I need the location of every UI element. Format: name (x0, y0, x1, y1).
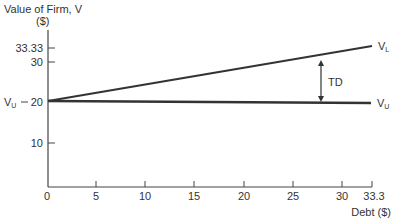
x-tick-label: 33.3 (363, 190, 384, 202)
x-tick-label: 30 (336, 190, 348, 202)
y-tick-label: 10 (31, 137, 43, 149)
x-tick-label: 0 (44, 190, 50, 202)
x-tick-label: 15 (188, 190, 200, 202)
y-ticks: 33.33 30 20 10 VU (4, 42, 55, 149)
y-tick-label: 33.33 (15, 42, 43, 54)
y-axis-unit: ($) (36, 15, 49, 27)
y-axis-title: Value of Firm, V (4, 3, 83, 15)
vl-line (48, 46, 372, 101)
vu-label: VU (377, 97, 389, 110)
vu-line (48, 101, 371, 103)
x-tick-label: 25 (287, 190, 299, 202)
vu-axis-label: VU (4, 96, 16, 109)
vl-label: VL (378, 40, 389, 53)
x-tick-label: 20 (238, 190, 250, 202)
chart: Value of Firm, V ($) 33.33 30 20 10 VU 0… (0, 0, 393, 220)
x-ticks: 0 5 10 15 20 25 30 33.3 (44, 181, 385, 202)
td-arrow (318, 60, 324, 102)
x-axis-title: Debt ($) (351, 206, 391, 218)
td-label: TD (328, 76, 343, 88)
y-tick-label: 20 (31, 96, 43, 108)
y-tick-label: 30 (31, 56, 43, 68)
x-tick-label: 5 (93, 190, 99, 202)
x-tick-label: 10 (139, 190, 151, 202)
